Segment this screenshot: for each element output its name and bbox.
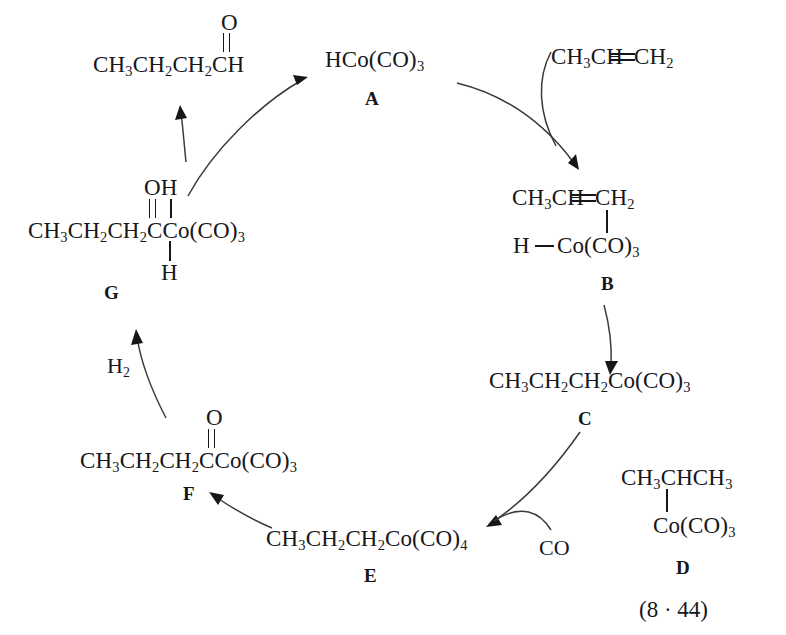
arrow-A-to-B <box>457 83 579 170</box>
species-C-formula: CH3CH2CH2Co(CO)3 <box>489 369 691 392</box>
arrow-F-to-G <box>131 329 166 418</box>
equation-number: (8 · 44) <box>639 598 708 621</box>
species-G-carbonyl-double-bond <box>149 199 156 218</box>
propene-double-bond-upper <box>611 53 635 55</box>
arrow-E-to-F <box>209 492 272 528</box>
species-F-oxygen: O <box>206 406 223 429</box>
species-B-hydride: H <box>513 234 530 257</box>
propene-left: CH3CH <box>551 45 623 68</box>
species-F-label: F <box>183 484 195 503</box>
hydroformylation-cycle-diagram: CH3CH2CH2CH O HCo(CO)3 A CH3CH CH2 CH3CH… <box>0 0 786 635</box>
species-B-alkene-cobalt-bond <box>606 210 608 233</box>
species-B-cobalt-carbonyl: Co(CO)3 <box>557 234 640 257</box>
propene-right: CH2 <box>634 45 674 68</box>
species-F-double-bond <box>208 429 215 448</box>
aldehyde-chain: CH3CH2CH2CH <box>93 53 244 76</box>
species-G-hydride: H <box>161 261 178 284</box>
species-B-h-co-bond <box>535 245 554 247</box>
arrow-G-to-A <box>188 75 308 196</box>
species-G-hydroxyl: OH <box>144 176 177 199</box>
h2-reagent-label: H2 <box>107 355 130 377</box>
arrow-to-aldehyde-product <box>175 105 187 162</box>
aldehyde-double-bond <box>223 33 230 52</box>
species-B-alkene-right: CH2 <box>595 186 635 209</box>
species-D-label: D <box>676 558 690 577</box>
species-D-cobalt-carbonyl: Co(CO)3 <box>653 514 736 537</box>
co-reagent-label: CO <box>539 537 570 559</box>
aldehyde-oxygen: O <box>221 11 238 34</box>
species-C-label: C <box>578 409 592 428</box>
species-G-chain: CH3CH2CH2CCo(CO)3 <box>28 219 245 242</box>
species-D-carbon-cobalt-bond <box>666 489 668 512</box>
arrow-co-feed <box>494 511 551 530</box>
species-B-double-bond-lower <box>572 200 596 202</box>
arrow-C-to-E <box>486 432 580 527</box>
species-G-label: G <box>104 283 119 302</box>
propene-double-bond-lower <box>611 59 635 61</box>
species-F-chain: CH3CH2CH2CCo(CO)3 <box>80 449 297 472</box>
arrow-B-to-C <box>604 305 618 375</box>
species-E-label: E <box>364 566 377 585</box>
species-G-cobalt-hydride-bond <box>169 241 171 261</box>
species-A-formula: HCo(CO)3 <box>325 48 424 71</box>
species-D-isopropyl: CH3CHCH3 <box>621 466 733 489</box>
species-B-alkene-left: CH3CH <box>512 186 584 209</box>
species-B-label: B <box>601 274 614 293</box>
species-A-label: A <box>365 89 379 108</box>
species-B-double-bond-upper <box>572 194 596 196</box>
species-G-oh-cobalt-bond <box>170 199 172 218</box>
species-E-formula: CH3CH2CH2Co(CO)4 <box>266 527 468 550</box>
